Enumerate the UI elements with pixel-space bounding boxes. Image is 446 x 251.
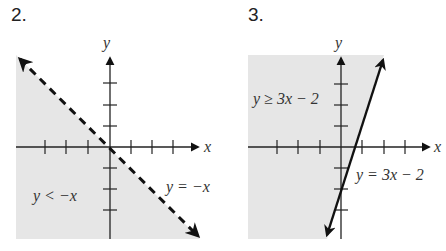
y-axis-label: y (333, 34, 343, 52)
x-axis-label: x (203, 138, 211, 155)
graph-2: y x y < −x y = −x (16, 34, 211, 239)
x-axis-label: x (433, 138, 441, 155)
y-axis-label: y (101, 34, 111, 52)
inequality-label: y < −x (31, 187, 77, 205)
equation-label: y = −x (164, 178, 210, 196)
inequality-label: y ≥ 3x − 2 (251, 90, 319, 108)
graphs: y x y < −x y = −x y x y ≥ 3x − 2 y = 3 (0, 0, 446, 251)
equation-label: y = 3x − 2 (354, 166, 424, 184)
graph-3: y x y ≥ 3x − 2 y = 3x − 2 (248, 34, 441, 239)
